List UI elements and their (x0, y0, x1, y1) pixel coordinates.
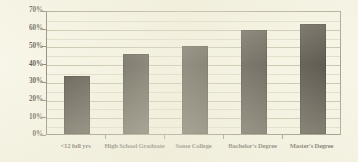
bar (182, 46, 208, 134)
y-axis-tick-label: 70% (3, 7, 43, 14)
y-axis-tick-mark (42, 135, 46, 136)
gridline-minor (47, 39, 340, 40)
x-axis-tick-mark (282, 135, 283, 139)
bar (241, 30, 267, 135)
bar (300, 24, 326, 134)
y-axis-tick-label: 60% (3, 25, 43, 32)
gridline-major (47, 30, 340, 31)
y-axis-tick-label: 0% (3, 131, 43, 138)
y-axis-tick-label: 40% (3, 61, 43, 68)
x-axis-category-label: <12 full yrs (60, 143, 90, 150)
x-axis-category-label: High School Graduate (104, 143, 164, 150)
plot-area (46, 11, 341, 135)
y-axis-tick-label: 10% (3, 114, 43, 121)
gridline-minor (47, 21, 340, 22)
x-axis-category-label: Master's Degree (290, 143, 334, 150)
bar-chart: 0%10%20%30%40%50%60%70% <12 full yrsHigh… (0, 0, 358, 162)
x-axis-tick-mark (223, 135, 224, 139)
x-axis-category-label: Bachelor's Degree (228, 143, 276, 150)
x-axis-tick-mark (164, 135, 165, 139)
y-axis-tick-label: 20% (3, 96, 43, 103)
x-axis-tick-mark (105, 135, 106, 139)
y-axis-tick-label: 30% (3, 78, 43, 85)
bar (64, 76, 90, 134)
y-axis-tick-label: 50% (3, 43, 43, 50)
bar (123, 54, 149, 134)
x-axis-category-label: Some College (175, 143, 211, 150)
